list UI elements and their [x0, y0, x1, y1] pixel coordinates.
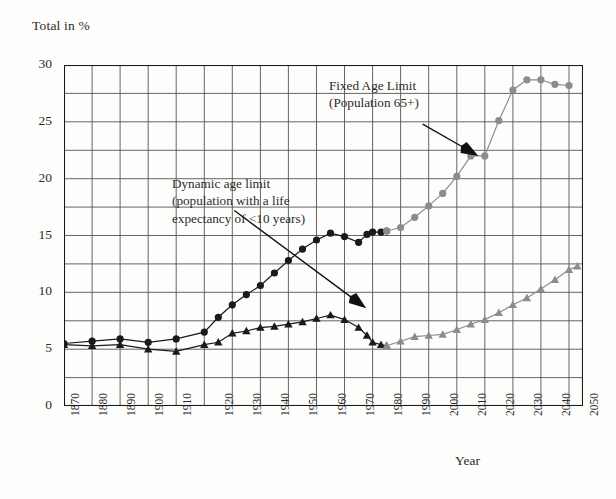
- y-tick-label-30: 30: [22, 56, 52, 72]
- series-4-projection-triangle: [382, 262, 581, 349]
- arrow-fixed-age-limit: [423, 124, 479, 156]
- y-tick-label-25: 25: [22, 113, 52, 129]
- chart-container: Total in % Year 051015202530 18701880189…: [0, 0, 616, 499]
- x-tick-label-2050: 2050: [588, 393, 600, 416]
- y-axis-title: Total in %: [32, 18, 90, 34]
- series-1-historic-circle: [64, 227, 390, 347]
- y-tick-label-15: 15: [22, 227, 52, 243]
- gridlines: [64, 65, 583, 406]
- y-tick-label-5: 5: [22, 340, 52, 356]
- y-tick-label-0: 0: [22, 397, 52, 413]
- plot-svg: [64, 65, 583, 406]
- annotation-fixed-age-limit: Fixed Age Limit (Population 65+): [329, 77, 419, 112]
- plot-area: [64, 65, 583, 406]
- series-3-historic-triangle: [64, 311, 391, 355]
- x-axis-title: Year: [455, 453, 480, 469]
- y-tick-label-10: 10: [22, 283, 52, 299]
- y-tick-label-20: 20: [22, 170, 52, 186]
- annotation-dynamic-age-limit: Dynamic age limit (population with a lif…: [172, 175, 305, 227]
